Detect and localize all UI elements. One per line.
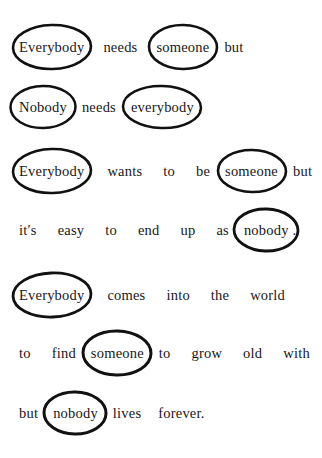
word: needs xyxy=(102,40,138,55)
word-text: lives xyxy=(113,405,141,421)
word: to xyxy=(158,346,172,361)
word-text: easy xyxy=(58,222,85,238)
word-text: nobody xyxy=(53,405,98,421)
word-text: Everybody xyxy=(19,287,84,303)
word: lives xyxy=(112,406,142,421)
word: grow xyxy=(191,346,224,361)
word-text: Everybody xyxy=(19,39,84,55)
word: to xyxy=(18,346,32,361)
word: old xyxy=(242,346,263,361)
word-text: someone xyxy=(156,39,209,55)
word: but xyxy=(292,164,313,179)
word-text: as xyxy=(216,222,228,238)
word-text: grow xyxy=(192,345,223,361)
word-text: needs xyxy=(82,99,116,115)
word: end xyxy=(137,223,161,238)
word-text: comes xyxy=(107,287,145,303)
word: as xyxy=(215,223,229,238)
word-text: forever. xyxy=(158,405,204,421)
word-text: but xyxy=(19,405,38,421)
word-text: world xyxy=(250,287,285,303)
word-text: wants xyxy=(107,163,142,179)
poem-canvas: EverybodyneedssomeonebutNobodyneedsevery… xyxy=(0,0,322,458)
word: forever. xyxy=(157,406,205,421)
circled-word: Everybody xyxy=(16,164,87,179)
punctuation: . xyxy=(197,100,202,115)
poem-line: butnobodylivesforever. xyxy=(0,406,322,421)
word: be xyxy=(195,164,211,179)
circled-word: someone xyxy=(153,40,212,55)
punctuation: . xyxy=(292,223,297,238)
circled-word: nobody xyxy=(50,406,101,421)
poem-line: tofindsomeonetogrowoldwith xyxy=(0,346,322,361)
word-text: to xyxy=(19,345,31,361)
word: world xyxy=(249,288,286,303)
word-text: Nobody xyxy=(19,99,67,115)
word: the xyxy=(210,288,230,303)
word: to xyxy=(104,223,118,238)
poem-line: Everybodyneedssomeonebut xyxy=(0,40,322,55)
word-text: Everybody xyxy=(19,163,84,179)
word: wants xyxy=(106,164,143,179)
word: into xyxy=(165,288,190,303)
word-text: it′s xyxy=(19,222,37,238)
word-text: but xyxy=(224,39,243,55)
word-text: up xyxy=(180,222,195,238)
word-text: find xyxy=(52,345,76,361)
word-text: someone xyxy=(225,163,278,179)
word-text: into xyxy=(166,287,189,303)
word-text: end xyxy=(138,222,160,238)
word: but xyxy=(223,40,244,55)
poem-line: Everybodywantstobesomeonebut xyxy=(0,164,322,179)
word: it′s xyxy=(18,223,38,238)
word: with xyxy=(282,346,311,361)
word: but xyxy=(18,406,39,421)
circled-word: Everybody xyxy=(16,40,87,55)
circled-word: nobody xyxy=(241,223,292,238)
circled-word: someone xyxy=(222,164,281,179)
word: up xyxy=(179,223,196,238)
circled-word: someone xyxy=(88,346,147,361)
word-text: everybody xyxy=(131,99,194,115)
word-text: to xyxy=(163,163,175,179)
word: to xyxy=(162,164,176,179)
word-text: to xyxy=(105,222,117,238)
word-text: with xyxy=(283,345,310,361)
word: find xyxy=(51,346,77,361)
word: easy xyxy=(57,223,86,238)
circled-word: Nobody xyxy=(16,100,70,115)
word-text: nobody xyxy=(244,222,289,238)
word-text: old xyxy=(243,345,262,361)
word: comes xyxy=(106,288,146,303)
word-text: but xyxy=(293,163,312,179)
poem-line: it′seasytoendupasnobody. xyxy=(0,223,322,238)
circled-word: everybody xyxy=(128,100,197,115)
word: needs xyxy=(81,100,117,115)
poem-line: Nobodyneedseverybody. xyxy=(0,100,322,115)
word-text: someone xyxy=(91,345,144,361)
word-text: the xyxy=(211,287,229,303)
word-text: to xyxy=(159,345,171,361)
circled-word: Everybody xyxy=(16,288,87,303)
word-text: be xyxy=(196,163,210,179)
word-text: needs xyxy=(103,39,137,55)
poem-line: Everybodycomesintotheworld xyxy=(0,288,322,303)
